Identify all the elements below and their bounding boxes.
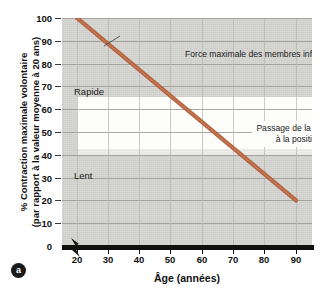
zone-label-rapide: Rapide: [74, 86, 104, 97]
ytick-label-50: 50: [41, 127, 52, 138]
ytick-mark-90: [55, 41, 61, 42]
series-annotation-label: Force maximale des membres inférieurs: [185, 49, 312, 59]
ytick-mark-50: [55, 132, 61, 133]
xtick-label-20: 20: [72, 254, 83, 265]
y-axis-title: % Contraction maximale volontaire (par r…: [18, 16, 42, 248]
plot-area: Rapide Lent Force maximale des membres i…: [62, 18, 312, 246]
xtick-label-80: 80: [259, 254, 270, 265]
ytick-mark-30: [55, 178, 61, 179]
threshold-callout-line1: Passage de la position assise: [252, 123, 312, 134]
figure-panel: Rapide Lent Force maximale des membres i…: [0, 0, 327, 296]
ytick-label-40: 40: [41, 149, 52, 160]
ytick-mark-80: [55, 64, 61, 65]
threshold-callout: Passage de la position assise à la posit…: [252, 121, 312, 147]
series-line-highlight: [77, 18, 296, 200]
x-axis-title: Âge (années): [62, 272, 312, 284]
ytick-mark-40: [55, 155, 61, 156]
ytick-mark-10: [55, 223, 61, 224]
xtick-label-30: 30: [103, 254, 114, 265]
x-axis-line: [62, 245, 314, 250]
zone-label-lent: Lent: [74, 170, 93, 181]
ytick-label-90: 90: [41, 35, 52, 46]
y-axis-title-line2: (par rapport à la valeur moyenne à 20 an…: [30, 16, 42, 248]
threshold-callout-line2: à la position debout: [252, 134, 312, 145]
xtick-label-60: 60: [197, 254, 208, 265]
xtick-label-70: 70: [228, 254, 239, 265]
ytick-mark-100: [55, 18, 61, 19]
ytick-label-30: 30: [41, 172, 52, 183]
ytick-mark-70: [55, 86, 61, 87]
ytick-label-10: 10: [41, 218, 52, 229]
xtick-label-40: 40: [134, 254, 145, 265]
ytick-label-0: 0: [47, 241, 52, 252]
ytick-label-80: 80: [41, 58, 52, 69]
panel-badge: a: [11, 263, 26, 278]
y-axis-title-line1: % Contraction maximale volontaire: [18, 53, 29, 211]
xtick-label-90: 90: [291, 254, 302, 265]
xtick-label-50: 50: [165, 254, 176, 265]
ytick-label-20: 20: [41, 195, 52, 206]
ytick-label-70: 70: [41, 81, 52, 92]
ytick-mark-60: [55, 109, 61, 110]
ytick-mark-20: [55, 200, 61, 201]
ytick-label-60: 60: [41, 104, 52, 115]
